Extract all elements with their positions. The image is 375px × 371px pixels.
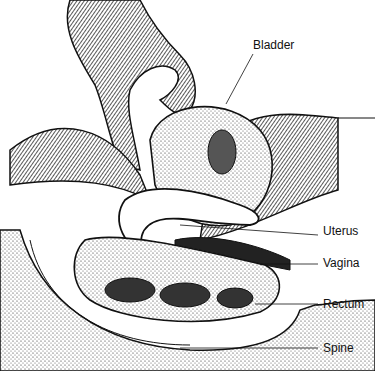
anatomy-diagram: Bladder Uterus Vagina Rectum Spine [0,0,375,371]
label-spine: Spine [323,341,354,355]
pelvis-illustration [0,0,375,371]
bladder-detail [208,130,236,174]
label-uterus: Uterus [323,224,358,238]
label-vagina: Vagina [323,256,359,270]
label-rectum: Rectum [323,297,364,311]
label-bladder: Bladder [253,38,294,52]
leader-bladder [226,54,253,104]
